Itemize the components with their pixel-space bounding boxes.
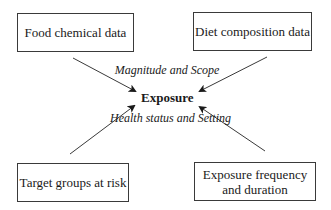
box-target-groups-at-risk: Target groups at risk: [17, 163, 129, 202]
box-diet-composition-data-label: Diet composition data: [194, 24, 311, 39]
box-diet-composition-data: Diet composition data: [193, 12, 312, 51]
box-food-chemical-data-label: Food chemical data: [18, 25, 133, 40]
box-exposure-frequency-and-duration-label: Exposure frequency and duration: [195, 167, 315, 197]
box-exposure-frequency-and-duration: Exposure frequency and duration: [194, 162, 316, 201]
box-target-groups-at-risk-label: Target groups at risk: [18, 175, 128, 190]
annotation-magnitude-and-scope: Magnitude and Scope: [114, 63, 220, 78]
box-food-chemical-data: Food chemical data: [17, 13, 134, 52]
annotation-health-status-and-setting: Health status and Setting: [110, 111, 226, 126]
center-node-exposure: Exposure: [141, 90, 193, 106]
